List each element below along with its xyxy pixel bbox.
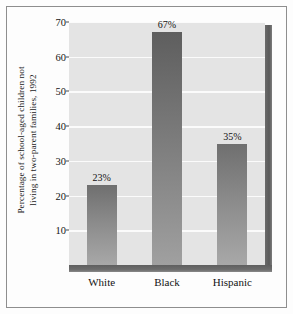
y-axis-tick-mark	[66, 160, 69, 161]
y-axis-tick-mark	[66, 56, 69, 57]
bar-black[interactable]	[152, 32, 182, 265]
y-axis-tick-mark	[66, 126, 69, 127]
y-axis-tick-mark	[66, 22, 69, 23]
y-axis-tick-label: 40	[42, 121, 66, 132]
chart-figure: Percentage of school-aged children not l…	[0, 0, 293, 314]
y-axis-tick-label: 70	[42, 17, 66, 28]
y-axis-tick-label: 30	[42, 155, 66, 166]
plot-area	[69, 22, 265, 265]
y-axis-tick-mark	[66, 91, 69, 92]
bar-hispanic[interactable]	[217, 144, 247, 266]
bar-value-label: 67%	[137, 19, 197, 30]
plot-right-shadow	[265, 25, 272, 268]
y-axis-tick-labels: 10203040506070	[40, 0, 66, 314]
y-axis-title: Percentage of school-aged children not l…	[10, 14, 44, 266]
bar-value-label: 35%	[202, 131, 262, 142]
y-axis-tick-mark	[66, 195, 69, 196]
plot-base-shadow	[69, 265, 272, 272]
bar-white[interactable]	[87, 185, 117, 265]
x-axis-label-hispanic: Hispanic	[192, 276, 272, 288]
y-axis-tick-label: 50	[42, 86, 66, 97]
y-axis-tick-mark	[66, 230, 69, 231]
y-axis-tick-label: 20	[42, 190, 66, 201]
y-axis-title-line-1: Percentage of school-aged children not	[16, 66, 28, 213]
y-axis-tick-label: 10	[42, 225, 66, 236]
y-axis-tick-label: 60	[42, 51, 66, 62]
y-axis-title-line-2: living in two-parent families, 1992	[27, 66, 39, 213]
bar-value-label: 23%	[72, 172, 132, 183]
